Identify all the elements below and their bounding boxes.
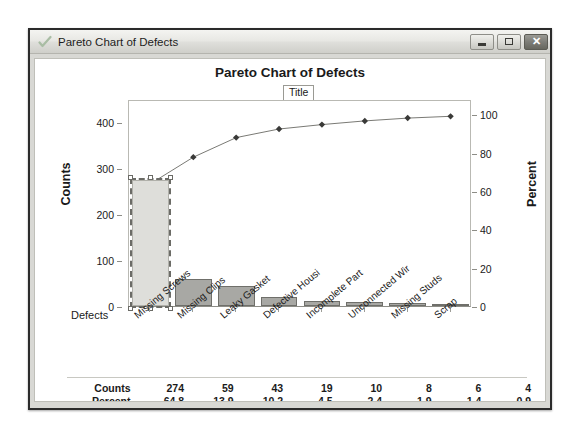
table-cell: 4.5 (287, 395, 337, 402)
tick-label: 200 (96, 209, 114, 221)
tick-mark (472, 230, 477, 231)
table-cell: 0.9 (485, 395, 535, 402)
maximize-icon (505, 38, 513, 45)
chart-title: Pareto Chart of Defects (35, 65, 545, 80)
cum-marker-7[interactable] (447, 113, 453, 119)
maximize-button[interactable] (497, 34, 521, 50)
table-cell: 13.9 (188, 395, 238, 402)
window-title: Pareto Chart of Defects (58, 36, 470, 48)
table-cell: 8 (386, 382, 436, 395)
summary-table: Counts27459431910864Percent64.813.910.24… (67, 382, 535, 402)
tick-label: 80 (480, 148, 492, 160)
table-cell: 59 (188, 382, 238, 395)
tick-mark (117, 307, 122, 308)
minimize-button[interactable] (470, 34, 494, 50)
table-cell: 43 (238, 382, 288, 395)
cumulative-line (129, 101, 429, 251)
table-cell: 10.2 (238, 395, 288, 402)
table-cell: 4 (485, 382, 535, 395)
tick-mark (117, 123, 122, 124)
category-axis-labels: Missing ScrewsMissing ClipsLeaky GasketD… (128, 308, 471, 378)
table-cell: 19 (287, 382, 337, 395)
cum-marker-6[interactable] (404, 115, 410, 121)
cum-marker-2[interactable] (233, 134, 239, 140)
cum-marker-4[interactable] (319, 121, 325, 127)
cum-marker-1[interactable] (190, 154, 196, 160)
chart-window: Pareto Chart of Defects ✕ Pareto Chart o… (28, 28, 552, 410)
close-icon: ✕ (532, 36, 541, 47)
y-axis-label: Counts (59, 139, 73, 229)
pareto-data-table: Counts27459431910864Percent64.813.910.24… (45, 377, 535, 402)
tick-mark (117, 261, 122, 262)
table-cell: 6 (436, 382, 486, 395)
table-row: Percent64.813.910.24.52.41.91.40.9 (67, 395, 535, 402)
selection-handle-2[interactable] (168, 175, 173, 180)
tick-label: 20 (480, 263, 492, 275)
y-axis-ticks: 0100200300400 (84, 100, 122, 307)
tick-label: 100 (96, 255, 114, 267)
table-row: Counts27459431910864 (67, 382, 535, 395)
tick-mark (472, 154, 477, 155)
table-cell: 64.8 (139, 395, 189, 402)
chart-surface[interactable]: Pareto Chart of Defects Title Counts Per… (35, 59, 545, 401)
tick-label: 300 (96, 163, 114, 175)
selection-handle-1[interactable] (148, 175, 153, 180)
close-button[interactable]: ✕ (524, 34, 548, 50)
table-separator (67, 377, 527, 378)
table-cell: 1.9 (386, 395, 436, 402)
chart-client-area: Pareto Chart of Defects Title Counts Per… (34, 58, 546, 402)
tick-label: 40 (480, 224, 492, 236)
minimize-icon (478, 43, 486, 46)
cum-marker-5[interactable] (362, 118, 368, 124)
tick-mark (117, 169, 122, 170)
tick-mark (472, 192, 477, 193)
y2-axis-label: Percent (525, 139, 539, 229)
tick-mark (472, 115, 477, 116)
selection-handle-0[interactable] (128, 175, 133, 180)
window-title-bar[interactable]: Pareto Chart of Defects ✕ (30, 30, 550, 54)
tick-mark (472, 307, 477, 308)
tick-label: 400 (96, 117, 114, 129)
table-cell: 1.4 (436, 395, 486, 402)
tick-label: 100 (480, 109, 498, 121)
tick-label: 0 (480, 301, 486, 313)
tick-label: 0 (108, 301, 114, 313)
table-cell: 10 (337, 382, 387, 395)
table-cell: 274 (139, 382, 189, 395)
tick-label: 60 (480, 186, 492, 198)
check-icon (38, 35, 52, 49)
table-row-header: Counts (67, 382, 139, 395)
cum-marker-3[interactable] (276, 126, 282, 132)
tick-mark (472, 269, 477, 270)
window-controls: ✕ (470, 34, 548, 50)
x-axis-label: Defects (71, 309, 108, 321)
y2-axis-ticks: 020406080100 (472, 100, 510, 307)
tick-mark (117, 215, 122, 216)
table-cell: 2.4 (337, 395, 387, 402)
table-row-header: Percent (67, 395, 139, 402)
